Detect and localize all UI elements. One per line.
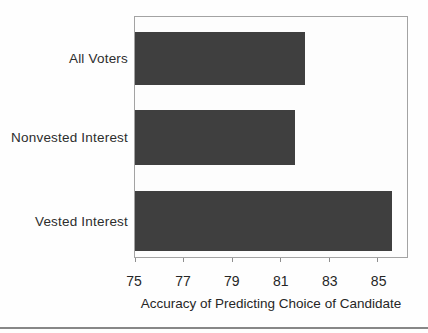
bar-nonvested-interest bbox=[135, 110, 295, 164]
x-tick-label-83: 83 bbox=[322, 273, 338, 289]
x-tick-mark-75 bbox=[135, 258, 136, 262]
x-tick-mark-81 bbox=[280, 258, 281, 262]
x-tick-label-75: 75 bbox=[126, 273, 142, 289]
x-tick-mark-83 bbox=[329, 258, 330, 262]
plot-area bbox=[134, 16, 408, 258]
x-tick-label-77: 77 bbox=[175, 273, 191, 289]
category-label-nonvested-interest: Nonvested Interest bbox=[0, 130, 128, 145]
bar-chart-figure: All VotersNonvested InterestVested Inter… bbox=[0, 0, 428, 333]
x-tick-mark-79 bbox=[232, 258, 233, 262]
x-tick-mark-77 bbox=[183, 258, 184, 262]
bar-all-voters bbox=[135, 32, 305, 86]
x-tick-label-85: 85 bbox=[371, 273, 387, 289]
x-tick-label-79: 79 bbox=[224, 273, 240, 289]
x-tick-label-81: 81 bbox=[273, 273, 289, 289]
bottom-rule-divider bbox=[0, 327, 428, 329]
x-tick-mark-85 bbox=[377, 258, 378, 262]
x-axis-title: Accuracy of Predicting Choice of Candida… bbox=[134, 296, 408, 311]
bar-vested-interest bbox=[135, 191, 392, 251]
category-label-all-voters: All Voters bbox=[0, 50, 128, 65]
category-label-vested-interest: Vested Interest bbox=[0, 214, 128, 229]
